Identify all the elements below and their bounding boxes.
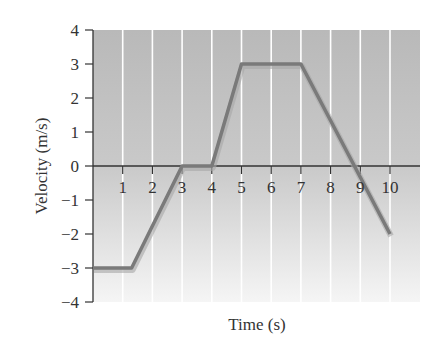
y-tick-label: −4 xyxy=(61,293,80,312)
x-tick-label: 7 xyxy=(297,178,306,197)
y-axis-title: Velocity (m/s) xyxy=(32,118,51,215)
y-tick-label: 3 xyxy=(71,55,80,74)
velocity-time-chart: 43210−1−2−3−412345678910 Time (s) Veloci… xyxy=(0,0,441,344)
y-tick-label: 1 xyxy=(71,123,80,142)
y-tick-label: −1 xyxy=(61,191,79,210)
x-tick-label: 6 xyxy=(267,178,276,197)
x-tick-label: 3 xyxy=(178,178,187,197)
x-tick-label: 4 xyxy=(208,178,217,197)
x-axis-title: Time (s) xyxy=(228,315,285,334)
y-tick-label: 0 xyxy=(71,157,80,176)
x-tick-label: 9 xyxy=(356,178,365,197)
x-tick-label: 8 xyxy=(326,178,335,197)
x-tick-label: 5 xyxy=(237,178,246,197)
x-tick-label: 10 xyxy=(382,178,399,197)
x-tick-label: 2 xyxy=(148,178,157,197)
y-tick-label: 2 xyxy=(71,89,80,108)
y-tick-label: −3 xyxy=(61,259,79,278)
y-tick-label: 4 xyxy=(71,21,80,40)
y-tick-label: −2 xyxy=(61,225,79,244)
x-tick-label: 1 xyxy=(118,178,127,197)
